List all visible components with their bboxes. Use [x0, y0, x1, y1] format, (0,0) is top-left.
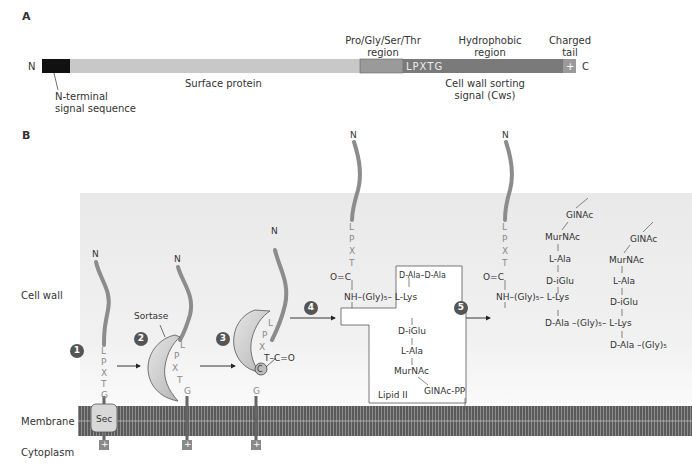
- step5-dala-gly-lys: D-Ala –(Gly)₅– L-Lys: [545, 318, 632, 329]
- step5-glnac: GlNAc: [566, 210, 593, 221]
- sortase-label: Sortase: [134, 311, 168, 322]
- step-2-badge: 2: [134, 333, 148, 344]
- step5-murnac-2: MurNAc: [609, 255, 644, 266]
- residue-x: X: [101, 368, 107, 379]
- hydrophobic-label-2: region: [445, 47, 535, 58]
- residue-g: G: [101, 390, 108, 401]
- charged-plus: +: [566, 61, 574, 72]
- step3-carbonyl: T–C=O: [264, 353, 295, 364]
- step3-cys: C: [257, 364, 263, 375]
- sec-label: Sec: [96, 414, 112, 425]
- panel-a-label: A: [22, 11, 31, 22]
- residue-l: L: [101, 346, 106, 357]
- plus-1: +: [101, 439, 109, 450]
- signal-label-1: N-terminal: [55, 91, 108, 102]
- membrane-label: Membrane: [21, 416, 75, 427]
- n-label-1: N: [92, 249, 99, 260]
- step5-diglu-2: D-iGlu: [610, 297, 638, 308]
- lipid-ii-label: Lipid II: [378, 390, 408, 401]
- residue-p: P: [101, 357, 106, 368]
- step4-murnac: MurNAc: [394, 366, 429, 377]
- residue-p: P: [174, 351, 179, 362]
- step5-dala-gly: D-Ala –(Gly)₅: [610, 340, 667, 351]
- step4-dala-dala: D-Ala–D-Ala: [399, 270, 446, 281]
- step5-oc: O=C: [483, 272, 504, 283]
- step-1-badge: 1: [70, 345, 84, 356]
- residue-t: T: [349, 258, 355, 269]
- residue-l: L: [349, 222, 354, 233]
- residue-l: L: [268, 318, 273, 329]
- hydrophobic-label-1: Hydrophobic: [445, 35, 535, 46]
- panel-b-label: B: [22, 130, 30, 141]
- step4-diglu: D-iGlu: [398, 326, 426, 337]
- n-label-3: N: [271, 226, 278, 237]
- step-5-badge: 5: [454, 302, 468, 313]
- n-label-5: N: [502, 130, 509, 141]
- residue-x: X: [502, 246, 508, 257]
- plus-2: +: [184, 439, 192, 450]
- residue-p: P: [502, 234, 507, 245]
- charged-tail-label-1: Charged: [540, 35, 600, 46]
- cws-label-2: signal (Cws): [430, 90, 540, 101]
- step5-nh-gly-lys: NH–(Gly)₅– L-Lys: [496, 292, 569, 303]
- step5-lala-2: L-Ala: [613, 276, 635, 287]
- cytoplasm-label: Cytoplasm: [21, 447, 74, 458]
- c-terminus-label: C: [582, 61, 589, 72]
- surface-protein-label: Surface protein: [185, 78, 262, 89]
- residue-t: T: [177, 375, 183, 386]
- step4-glnac-pp: GlNAc-PP: [424, 386, 465, 397]
- residue-l: L: [180, 340, 185, 351]
- n-label-4: N: [350, 130, 357, 141]
- step4-oc: O=C: [330, 272, 351, 283]
- residue-t: T: [502, 258, 508, 269]
- residue-x: X: [172, 363, 178, 374]
- step-4-badge: 4: [304, 302, 318, 313]
- residue-p: P: [349, 234, 354, 245]
- residue-p: P: [262, 330, 267, 341]
- charged-tail-label-2: tail: [540, 47, 600, 58]
- residue-x: X: [259, 342, 265, 353]
- residue-l: L: [502, 222, 507, 233]
- plus-3: +: [253, 439, 261, 450]
- lpxtg-motif: LPXTG: [406, 61, 443, 72]
- residue-t: T: [101, 379, 107, 390]
- step4-lala: L-Ala: [401, 346, 423, 357]
- step5-murnac: MurNAc: [545, 232, 580, 243]
- step4-nh-gly-lys: NH–(Gly)₅– L-Lys: [344, 292, 417, 303]
- pgst-label-1: Pro/Gly/Ser/Thr: [338, 35, 428, 46]
- pgst-label-2: region: [338, 47, 428, 58]
- signal-label-2: signal sequence: [55, 103, 136, 114]
- cell-wall-label: Cell wall: [21, 290, 63, 301]
- n-label-2: N: [174, 254, 181, 265]
- residue-x: X: [349, 246, 355, 257]
- residue-g: G: [253, 386, 260, 397]
- step5-glnac-2: GlNAc: [630, 234, 657, 245]
- cws-label-1: Cell wall sorting: [430, 78, 540, 89]
- n-terminus-label: N: [28, 61, 35, 72]
- residue-g: G: [184, 386, 191, 397]
- step5-diglu: D-iGlu: [546, 276, 574, 287]
- step5-lala: L-Ala: [549, 254, 571, 265]
- step-3-badge: 3: [216, 333, 230, 344]
